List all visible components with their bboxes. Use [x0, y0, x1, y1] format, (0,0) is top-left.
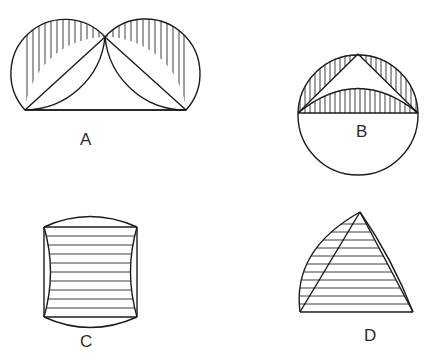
figure-board: A B C D	[0, 0, 444, 362]
figure-a-small-arc-left	[11, 19, 105, 110]
figure-d-left-chord	[300, 212, 360, 312]
figure-label-a: A	[80, 130, 92, 150]
figure-c	[38, 217, 144, 328]
figure-d	[286, 212, 420, 312]
figure-label-d: D	[364, 326, 377, 346]
figure-a	[11, 19, 200, 118]
figure-c-hatch	[38, 236, 144, 308]
figure-b-circle	[298, 55, 418, 175]
figure-d-right-edge	[360, 212, 413, 312]
figure-c-left-arc	[44, 227, 51, 317]
figure-a-hatch-left	[27, 20, 104, 118]
figure-c-right-arc	[131, 227, 138, 317]
figure-a-hatch-right	[107, 20, 184, 118]
geometry-diagram-svg	[0, 0, 444, 362]
figure-c-top-arc	[44, 217, 137, 228]
figure-c-bottom-arc	[44, 317, 137, 328]
figure-a-triangle	[25, 37, 186, 110]
figure-label-c: C	[80, 332, 93, 352]
figure-label-b: B	[356, 122, 368, 142]
figure-b	[298, 44, 418, 175]
